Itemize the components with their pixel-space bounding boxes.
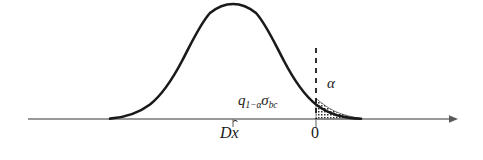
alpha-label: α [327,76,335,91]
q-sigma-label: q1−ασbc [238,93,278,110]
mean-symbol-d: D [220,124,232,141]
sigma-subscript: bc [269,100,278,110]
x-hat-group: ˆx [232,125,239,141]
zero-label: 0 [311,125,319,141]
x-axis [28,115,458,123]
figure-canvas: q1−ασbc α Dˆx 0 [0,0,483,160]
gaussian-curve [110,4,361,119]
hat-accent-icon: ˆ [233,117,238,132]
mean-label: Dˆx [220,125,239,141]
distribution-plot [0,0,483,160]
sigma-symbol: σ [261,92,268,108]
q-subscript: 1−α [246,100,262,110]
q-symbol: q [238,92,246,108]
axis-ticks [233,119,316,127]
